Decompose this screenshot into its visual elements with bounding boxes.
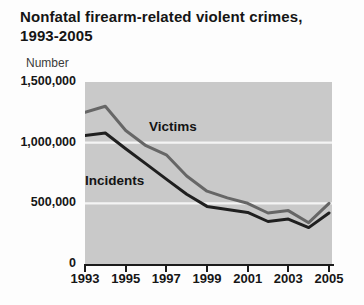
chart-figure: Nonfatal firearm-related violent crimes,… — [0, 0, 364, 305]
victims-line-label: Victims — [149, 119, 197, 134]
x-tick-label: 2003 — [268, 271, 308, 286]
y-tick-label: 500,000 — [0, 195, 76, 209]
chart-title-line2: 1993-2005 — [20, 26, 358, 45]
chart-title-line1: Nonfatal firearm-related violent crimes, — [20, 7, 358, 26]
y-tick-label: 1,000,000 — [0, 135, 76, 149]
x-tick-label: 2001 — [228, 271, 268, 286]
x-axis-line — [84, 264, 334, 266]
x-tick-label: 1993 — [65, 271, 105, 286]
x-tick-label: 1999 — [187, 271, 227, 286]
y-axis-unit-label: Number — [26, 56, 69, 70]
y-tick-label: 1,500,000 — [0, 74, 76, 88]
x-tick-label: 1995 — [106, 271, 146, 286]
chart-title: Nonfatal firearm-related violent crimes,… — [20, 7, 358, 45]
x-tick-label: 1997 — [146, 271, 186, 286]
incidents-line-label: Incidents — [85, 173, 144, 188]
x-tick-label: 2005 — [309, 271, 349, 286]
y-tick-label: 0 — [0, 256, 76, 270]
